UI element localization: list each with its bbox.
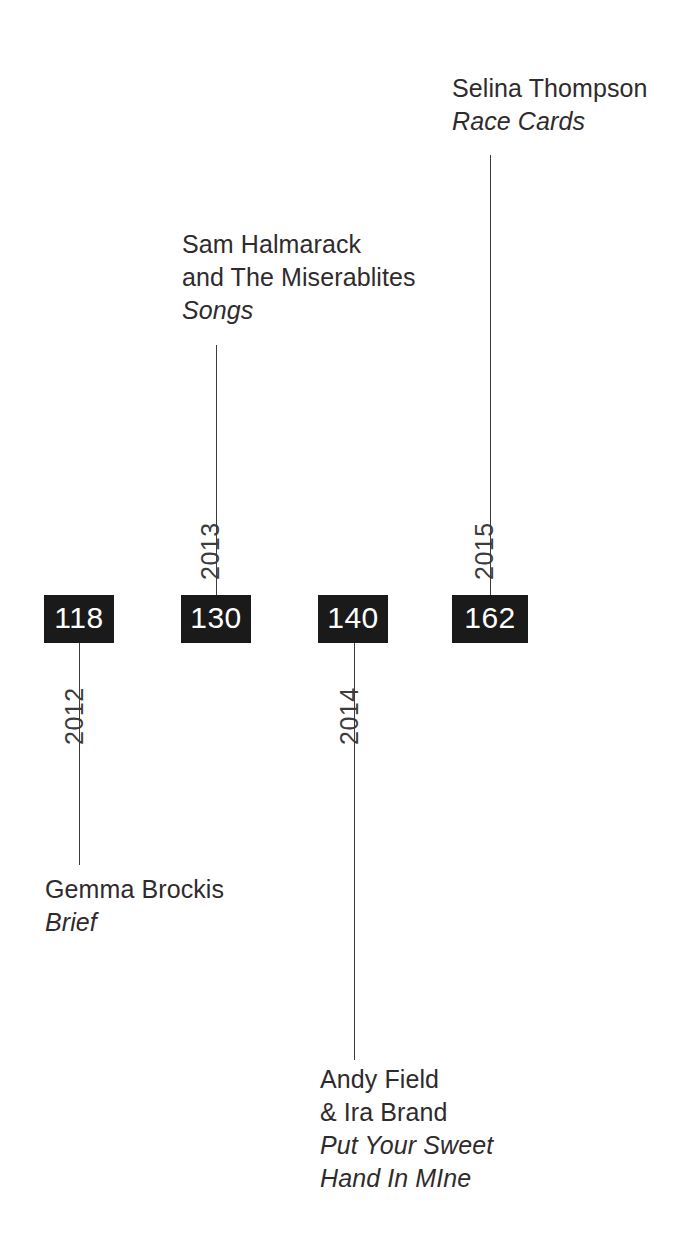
caption-artist-line: Gemma Brockis bbox=[45, 873, 224, 906]
connector-stem-2014 bbox=[354, 643, 355, 1060]
caption-artist-line: and The Miserablites bbox=[182, 261, 416, 294]
year-label-2012: 2012 bbox=[62, 687, 87, 745]
caption-work-line: Put Your Sweet bbox=[320, 1129, 493, 1162]
caption-work-line: Race Cards bbox=[452, 105, 648, 138]
year-label-2013: 2013 bbox=[198, 522, 223, 580]
caption-selina-thompson: Selina Thompson Race Cards bbox=[452, 72, 648, 138]
caption-sam-halmarack: Sam Halmarack and The Miserablites Songs bbox=[182, 228, 416, 327]
caption-andy-field: Andy Field & Ira Brand Put Your Sweet Ha… bbox=[320, 1063, 493, 1195]
node-page-140[interactable]: 140 bbox=[318, 595, 388, 643]
node-page-118[interactable]: 118 bbox=[44, 595, 114, 643]
year-label-2014: 2014 bbox=[337, 687, 362, 745]
caption-artist-line: Selina Thompson bbox=[452, 72, 648, 105]
caption-work-line: Brief bbox=[45, 906, 224, 939]
caption-artist-line: Andy Field bbox=[320, 1063, 493, 1096]
caption-gemma-brockis: Gemma Brockis Brief bbox=[45, 873, 224, 939]
caption-work-line: Hand In MIne bbox=[320, 1162, 493, 1195]
year-label-2015: 2015 bbox=[472, 522, 497, 580]
connector-stem-2012 bbox=[79, 643, 80, 865]
node-page-162[interactable]: 162 bbox=[452, 595, 528, 643]
node-page-130[interactable]: 130 bbox=[181, 595, 251, 643]
caption-artist-line: Sam Halmarack bbox=[182, 228, 416, 261]
caption-artist-line: & Ira Brand bbox=[320, 1096, 493, 1129]
timeline-diagram: Selina Thompson Race Cards 2015 162 Sam … bbox=[0, 0, 692, 1251]
caption-work-line: Songs bbox=[182, 294, 416, 327]
